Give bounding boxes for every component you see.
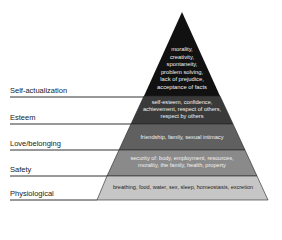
level-label-love-belonging: Love/belonging (10, 139, 61, 148)
description-safety: security of: body, employment, resources… (112, 155, 252, 170)
level-label-esteem: Esteem (10, 113, 35, 122)
description-esteem: self-esteem, confidence, achievement, re… (132, 99, 232, 121)
description-self-actualization: morality, creativity, spontaneity, probl… (142, 46, 222, 92)
description-love-belonging: friendship, family, sexual intimacy (122, 134, 242, 141)
level-label-safety: Safety (10, 165, 31, 174)
level-label-physiological: Physiological (10, 189, 54, 198)
level-label-self-actualization: Self-actualization (10, 86, 67, 95)
description-physiological: breathing, food, water, sex, sleep, home… (100, 184, 266, 191)
